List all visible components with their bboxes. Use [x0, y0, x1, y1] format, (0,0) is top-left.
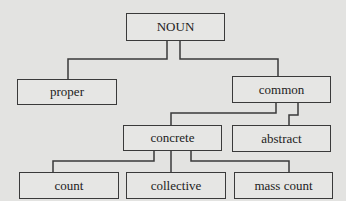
node-noun: NOUN [126, 13, 225, 41]
node-mass-count-label: mass count [254, 178, 312, 194]
node-abstract-label: abstract [261, 131, 301, 147]
edge-common-concrete [171, 102, 276, 125]
node-count: count [19, 172, 119, 199]
edge-noun-common [180, 40, 278, 76]
node-mass-count: mass count [234, 172, 333, 199]
edge-common-abstract [289, 102, 298, 125]
node-count-label: count [55, 178, 84, 194]
edge-noun-proper [68, 40, 167, 79]
node-proper-label: proper [50, 84, 84, 100]
node-collective: collective [126, 172, 226, 199]
edge-concrete-count [53, 150, 154, 172]
node-collective-label: collective [151, 178, 202, 194]
node-common-label: common [259, 82, 305, 98]
node-abstract: abstract [232, 125, 331, 152]
node-noun-label: NOUN [157, 19, 195, 35]
edge-concrete-mass-count [191, 150, 289, 172]
node-concrete: concrete [123, 125, 222, 151]
node-common: common [232, 76, 331, 103]
node-proper: proper [17, 79, 117, 105]
node-concrete-label: concrete [150, 130, 194, 146]
